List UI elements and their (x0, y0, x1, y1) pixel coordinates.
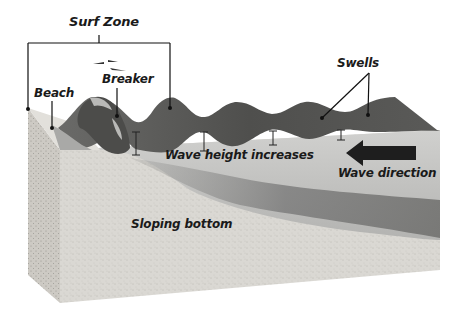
label-sloping-bottom: Sloping bottom (131, 217, 232, 231)
seagull-icons (93, 60, 126, 71)
label-beach: Beach (34, 86, 74, 100)
label-surf-zone: Surf Zone (69, 14, 139, 29)
label-breaker: Breaker (102, 72, 154, 86)
label-swells: Swells (337, 56, 379, 70)
label-wave-height: Wave height increases (165, 148, 314, 162)
diagram-canvas (0, 0, 462, 324)
wave-diagram: Surf Zone Beach Breaker Swells Wave heig… (0, 0, 462, 324)
label-wave-direction: Wave direction (338, 166, 436, 180)
